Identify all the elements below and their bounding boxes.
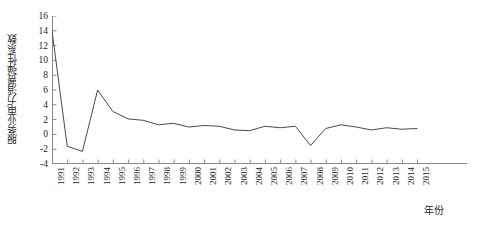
x-tick-label: 2010 [345,167,355,185]
x-tick-label: 2013 [391,167,401,185]
x-tick-label: 2012 [375,167,385,185]
x-tick-label: 2014 [406,167,416,185]
data-series-line [52,31,417,152]
y-tick-label: 8 [43,70,48,80]
plot-area [52,16,467,164]
x-tick-label: 2003 [239,167,249,185]
x-tick-label: 2004 [254,167,264,185]
y-tick-label: 0 [43,129,48,139]
x-tick-label: 2011 [360,167,370,185]
x-tick-label: 2008 [315,167,325,185]
y-tick-label: 2 [43,115,48,125]
x-tick-label: 1993 [86,167,96,185]
x-axis-tick-labels: 1991199219931994199519961997199819992000… [52,167,467,201]
x-tick-label: 2001 [208,167,218,185]
y-tick-label: 12 [39,41,49,51]
y-axis-title: 服务业电力消费弹性系数 [4,8,22,170]
y-tick-label: 4 [43,100,48,110]
x-tick-label: 2002 [223,167,233,185]
x-tick-label: 2006 [284,167,294,185]
x-tick-label: 1994 [102,167,112,185]
y-tick-label: 6 [43,85,48,95]
y-tick-label: 10 [39,55,49,65]
x-tick-label: 2015 [421,167,431,185]
axis-tick-marks [53,16,418,164]
y-tick-label: 16 [39,11,49,21]
y-tick-label: -4 [40,159,48,169]
x-tick-label: 1997 [147,167,157,185]
x-tick-label: 1999 [178,167,188,185]
line-chart-svg [52,16,467,164]
x-tick-label: 1992 [71,167,81,185]
x-tick-label: 2007 [299,167,309,185]
x-tick-label: 2005 [269,167,279,185]
x-axis-title: 年份 [424,202,444,217]
chart-figure: 服务业电力消费弹性系数 1614121086420-2-4 1991199219… [0,0,485,240]
axis-lines [53,16,468,164]
x-tick-label: 2000 [193,167,203,185]
x-tick-label: 1998 [162,167,172,185]
y-axis-tick-labels: 1614121086420-2-4 [22,16,48,164]
x-tick-label: 2009 [330,167,340,185]
x-tick-label: 1991 [56,167,66,185]
y-tick-label: 14 [39,26,49,36]
y-tick-label: -2 [40,144,48,154]
x-tick-label: 1996 [132,167,142,185]
x-tick-label: 1995 [117,167,127,185]
